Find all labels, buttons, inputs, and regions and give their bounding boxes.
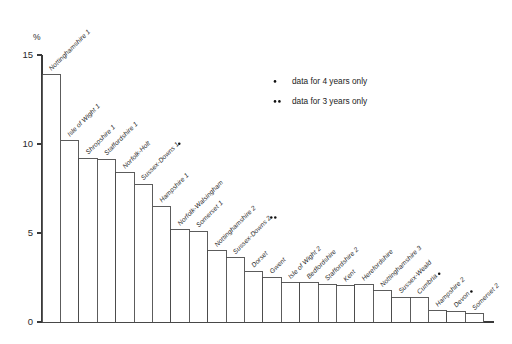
bar <box>152 206 170 322</box>
bar <box>281 283 299 322</box>
bar <box>336 286 354 322</box>
bar-category-label: Dorset <box>250 249 270 269</box>
bar <box>208 251 226 322</box>
bar-category-label: Nottinghamshire 1 <box>47 28 92 73</box>
legend-marker-dot <box>274 80 277 83</box>
y-tick-label: 10 <box>22 138 33 149</box>
chart-canvas: % 051015 Nottinghamshire 1Isle of Wight … <box>0 0 512 344</box>
data-note-marker-dot <box>178 142 181 145</box>
bar-category-label: Nottinghamshire 2 <box>213 204 258 249</box>
bar-category-label: Isle of Wight 1 <box>66 102 102 138</box>
legend-entry-label: data for 4 years only <box>292 76 368 86</box>
bar-category-label: Hampshire 1 <box>158 171 191 204</box>
bar <box>244 271 262 322</box>
bar <box>189 231 207 322</box>
bar <box>318 285 336 322</box>
y-axis-unit-label: % <box>33 32 41 42</box>
bar <box>428 310 446 322</box>
data-note-marker-dot <box>470 290 473 293</box>
bar <box>79 158 97 322</box>
y-axis-ticks: 051015 <box>22 49 42 327</box>
bar <box>171 229 189 322</box>
bar <box>300 283 318 322</box>
bar <box>263 278 281 323</box>
legend-marker-dot <box>278 100 281 103</box>
bar <box>134 184 152 322</box>
bar <box>373 291 391 322</box>
bars-group <box>42 75 484 322</box>
bar-category-label: Somerset 2 <box>471 282 501 312</box>
data-note-marker-dot <box>274 216 277 219</box>
bar <box>447 311 465 322</box>
bar-category-label: Norfolk-Holt <box>121 139 152 170</box>
data-note-marker-dot <box>438 272 441 275</box>
bar-chart-figure: % 051015 Nottinghamshire 1Isle of Wight … <box>0 0 512 344</box>
y-tick-label: 15 <box>22 49 33 60</box>
y-tick-label: 5 <box>28 227 33 238</box>
legend-marker-dot <box>274 100 277 103</box>
bar <box>465 314 483 322</box>
bar <box>410 298 428 322</box>
y-tick-label: 0 <box>28 316 33 327</box>
bar <box>42 75 60 322</box>
bar <box>392 297 410 322</box>
bar-category-label: Kent <box>342 267 358 283</box>
legend-entry-label: data for 3 years only <box>292 96 368 106</box>
bar <box>97 159 115 322</box>
chart-legend: data for 4 years onlydata for 3 years on… <box>274 76 368 106</box>
data-note-marker-dot <box>270 216 273 219</box>
bar-category-label: Devon <box>452 290 471 309</box>
bar <box>116 172 134 322</box>
bar-category-label: Gwent <box>268 255 288 275</box>
bar <box>355 285 373 322</box>
bar <box>226 258 244 322</box>
bar <box>60 140 78 322</box>
